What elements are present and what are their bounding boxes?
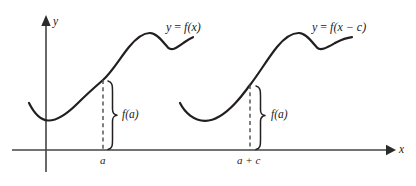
brace-label-right-f-of-a: f(a)	[271, 109, 288, 121]
curve-label-f-of-x-arg: (x)	[187, 20, 200, 34]
brace-label-left-f-of-a: f(a)	[122, 109, 139, 121]
curve-f-of-x-minus-c	[180, 33, 352, 121]
translation-figure: y x y = f(x) y = f(x − c) a a + c f(a) f…	[0, 0, 416, 186]
brace-left-f-of-a	[108, 81, 117, 150]
brace-label-right-arg: (a)	[274, 108, 287, 120]
curve-f-of-x	[29, 33, 193, 121]
curve-label-f-of-x-minus-c-eq: =	[317, 20, 330, 34]
curve-label-f-of-x: y = f(x)	[166, 21, 201, 33]
x-axis-arrowhead	[386, 145, 396, 155]
curve-label-f-of-x-minus-c-arg: (x − c)	[333, 20, 366, 34]
curve-label-f-of-x-eq: =	[171, 20, 184, 34]
curve-label-f-of-x-minus-c: y = f(x − c)	[312, 21, 366, 33]
x-axis-label: x	[399, 144, 404, 156]
x-tick-label-a: a	[100, 155, 106, 166]
y-axis-arrowhead	[41, 15, 50, 26]
brace-right-f-of-a	[256, 86, 265, 150]
x-tick-label-a-plus-c: a + c	[237, 155, 260, 166]
y-axis-label: y	[53, 16, 58, 28]
brace-label-left-arg: (a)	[125, 108, 138, 120]
